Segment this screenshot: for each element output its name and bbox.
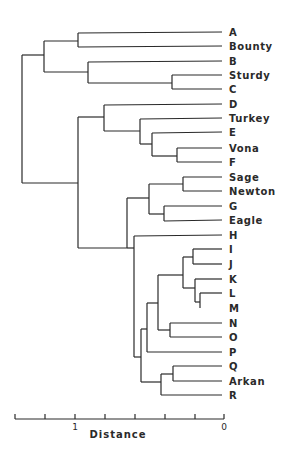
leaf-labels: ABountyBSturdyCDTurkeyEVonaFSageNewtonGE… (228, 27, 276, 401)
leaf-label: P (229, 347, 237, 358)
leaf-label: O (229, 332, 238, 343)
leaf-label: D (229, 99, 238, 110)
dendrogram-chart: ABountyBSturdyCDTurkeyEVonaFSageNewtonGE… (0, 0, 290, 462)
leaf-label: I (229, 244, 233, 255)
leaf-label: L (229, 288, 236, 299)
tick-label-1: 1 (72, 422, 78, 432)
leaf-label: Newton (229, 186, 276, 197)
tick-label-0: 0 (221, 422, 227, 432)
leaf-label: Eagle (229, 215, 263, 226)
leaf-label: Bounty (229, 41, 273, 52)
leaf-label: R (229, 390, 237, 401)
leaf-label: B (229, 56, 237, 67)
axis-ticks (15, 414, 224, 419)
leaf-label: C (229, 84, 237, 95)
branch-segment (152, 132, 222, 133)
branch-segment (78, 32, 222, 33)
branch-segment (78, 46, 222, 47)
branch-segment (164, 220, 222, 221)
dendrogram-branches (22, 32, 222, 395)
leaf-label: Q (229, 361, 238, 372)
leaf-label: Turkey (229, 113, 270, 124)
leaf-label: M (229, 303, 240, 314)
leaf-label: Sage (229, 172, 259, 183)
leaf-label: G (229, 201, 238, 212)
branch-segment (88, 61, 222, 62)
leaf-label: Vona (229, 143, 259, 154)
leaf-label: A (229, 27, 237, 38)
leaf-label: K (229, 274, 238, 285)
branch-segment (104, 104, 222, 105)
leaf-label: N (229, 318, 238, 329)
leaf-label: F (229, 157, 236, 168)
axis-title: Distance (89, 429, 146, 440)
branch-segment (134, 235, 222, 236)
leaf-label: J (228, 259, 233, 270)
leaf-label: Sturdy (229, 70, 270, 81)
distance-axis: 1 0 Distance (15, 414, 227, 440)
branch-segment (140, 118, 222, 119)
leaf-label: H (229, 230, 238, 241)
leaf-label: Arkan (229, 376, 265, 387)
leaf-label: E (229, 127, 236, 138)
